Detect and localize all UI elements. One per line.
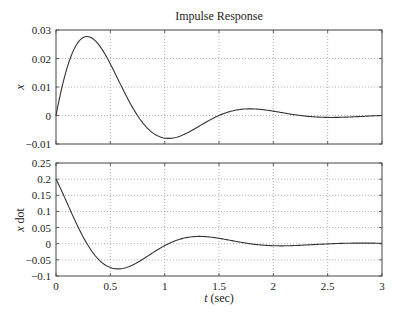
top-y-axis-label: x <box>13 84 27 91</box>
y-tick-label: 0.15 <box>32 189 52 201</box>
bottom-axes-xdot: 00.511.522.53−0.1−0.0500.050.10.150.20.2… <box>26 157 386 292</box>
y-tick-label: −0.05 <box>26 254 52 266</box>
y-tick-label: 0.01 <box>32 81 51 93</box>
top-axes-x: −0.0100.010.020.03 <box>26 24 382 150</box>
x-axis-label: t (sec) <box>204 291 234 305</box>
xlabel-rest: (sec) <box>208 291 234 305</box>
y-tick-label: 0 <box>46 238 52 250</box>
figure: Impulse Response −0.0100.010.020.03 00.5… <box>0 0 397 319</box>
y-tick-label: 0.05 <box>32 222 52 234</box>
y-tick-label: 0.02 <box>32 53 51 65</box>
y-tick-label: 0.1 <box>37 205 51 217</box>
x-tick-label: 2.5 <box>321 280 335 292</box>
chart-title: Impulse Response <box>175 9 263 23</box>
y-tick-label: 0.03 <box>32 24 52 36</box>
y-tick-label: 0 <box>46 110 52 122</box>
y-tick-label: −0.1 <box>31 270 51 282</box>
x-tick-label: 0.5 <box>103 280 117 292</box>
response-curve <box>56 179 382 269</box>
bottom-y-axis-label: x dot <box>13 208 27 233</box>
y-tick-label: 0.25 <box>32 157 52 169</box>
x-tick-label: 0 <box>53 280 59 292</box>
x-tick-label: 1 <box>162 280 168 292</box>
y-tick-label: −0.01 <box>26 138 51 150</box>
y-tick-label: 0.2 <box>37 173 51 185</box>
ylabel-rest: dot <box>13 208 27 227</box>
x-tick-label: 3 <box>379 280 385 292</box>
x-tick-label: 2 <box>271 280 277 292</box>
